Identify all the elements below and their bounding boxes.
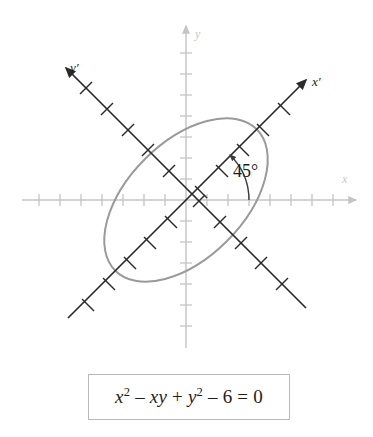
x-axis-label: x	[341, 172, 348, 186]
equation-text: x2 – xy + y2 – 6 = 0	[115, 386, 263, 408]
equation-operator-plus: +	[172, 386, 183, 407]
x-prime-axis-label: x′	[311, 74, 321, 89]
equation-exponent-y: 2	[197, 385, 203, 399]
y-prime-axis-label: y′	[68, 60, 79, 75]
equation-term-xy: xy	[150, 386, 167, 407]
angle-label: 45°	[233, 161, 258, 181]
equation-exponent-x: 2	[124, 385, 130, 399]
angle-annotation-group: 45°	[230, 155, 258, 200]
conic-rotation-diagram: x y	[0, 0, 373, 437]
equation-constant-six: 6	[223, 386, 233, 407]
equation-box: x2 – xy + y2 – 6 = 0	[88, 374, 290, 420]
y-axis-label: y	[194, 27, 201, 41]
equation-operator-minus-1: –	[135, 386, 145, 407]
equation-operator-minus-2: –	[208, 386, 218, 407]
equation-term-y: y	[188, 386, 197, 407]
equation-constant-zero: 0	[253, 386, 263, 407]
equation-term-x: x	[115, 386, 124, 407]
rotated-axes-group: x′ y′	[66, 60, 321, 318]
equation-operator-equals: =	[237, 386, 248, 407]
